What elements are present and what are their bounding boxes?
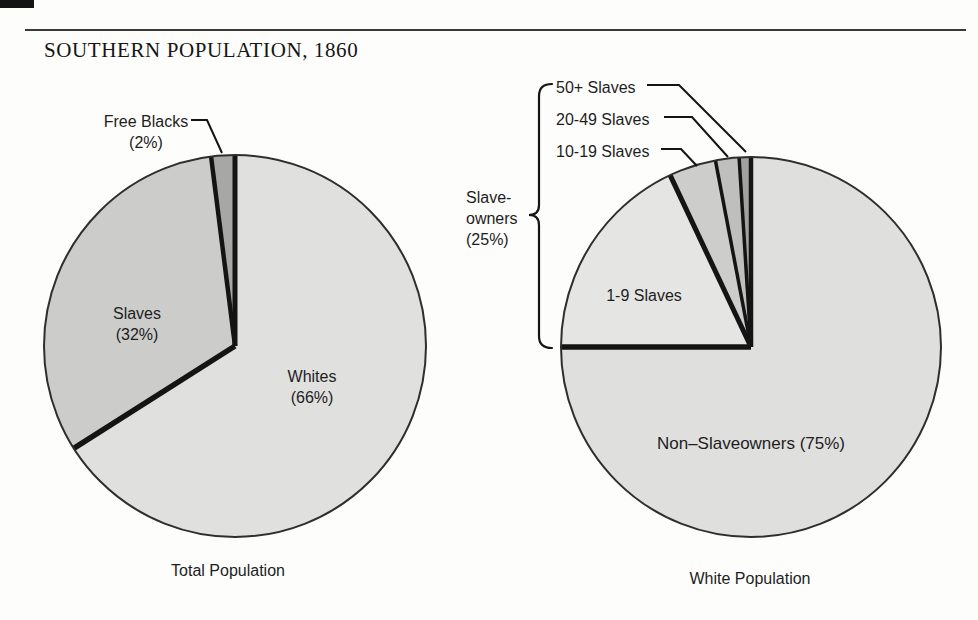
slice-label-20-49-slaves: 20-49 Slaves (556, 109, 649, 130)
slice-label-non-slaveowners: Non–Slaveowners (75%) (631, 433, 871, 454)
slice-label-slaves: Slaves (32%) (77, 303, 197, 345)
slice-label-10-19-slaves: 10-19 Slaves (556, 141, 649, 162)
callout-line (647, 85, 746, 152)
right-pie-caption: White Population (650, 568, 850, 589)
slice-label-50plus-slaves: 50+ Slaves (556, 77, 636, 98)
callout-line (661, 149, 697, 166)
left-pie-caption: Total Population (128, 560, 328, 581)
slice-label-whites: Whites (66%) (252, 366, 372, 408)
group-label-slave-owners: Slave- owners (25%) (466, 187, 546, 250)
slice-label-free-blacks: Free Blacks (2%) (86, 111, 206, 153)
slice-label-1-9-slaves: 1-9 Slaves (584, 285, 704, 306)
